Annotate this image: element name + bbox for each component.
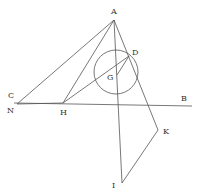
segment-an: [17, 20, 114, 104]
label-point-n: N: [7, 106, 14, 115]
label-point-b: B: [181, 94, 187, 103]
segments: [14, 20, 192, 183]
geometry-diagram: ADGNCHBKI: [0, 0, 199, 194]
label-point-g: G: [107, 73, 113, 82]
segment-ah: [63, 20, 114, 103]
label-point-h: H: [60, 108, 67, 117]
segment-cb: [14, 103, 192, 106]
segment-gd: [117, 56, 129, 75]
label-point-c: C: [8, 91, 14, 100]
segment-ki: [122, 130, 158, 183]
label-point-a: A: [110, 7, 117, 16]
label-point-k: K: [163, 127, 170, 136]
label-point-d: D: [132, 48, 138, 57]
label-point-i: I: [112, 181, 115, 190]
segment-ak: [114, 20, 158, 130]
segment-ai: [114, 20, 122, 183]
